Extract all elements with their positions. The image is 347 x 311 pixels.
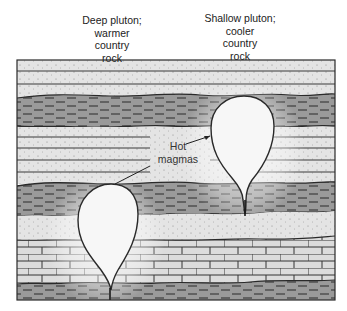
hot-magmas-label-line-2: magmas bbox=[153, 153, 203, 166]
deep-pluton-label-line-1: Deep pluton; bbox=[62, 14, 162, 27]
hot-magmas-label-line-1: Hot bbox=[153, 140, 203, 153]
strata bbox=[17, 60, 335, 306]
shallow-pluton-label-line-2: cooler bbox=[190, 25, 290, 38]
shallow-pluton-label-line-4: rock bbox=[190, 50, 290, 63]
deep-pluton-label: Deep pluton; warmer country rock bbox=[62, 14, 162, 64]
deep-pluton-label-line-3: country bbox=[62, 39, 162, 52]
hot-magmas-label: Hot magmas bbox=[153, 140, 203, 165]
shallow-pluton-label: Shallow pluton; cooler country rock bbox=[190, 12, 290, 62]
deep-pluton-label-line-2: warmer bbox=[62, 27, 162, 40]
sandstone-layer-2 bbox=[17, 71, 335, 84]
deep-pluton-label-line-4: rock bbox=[62, 52, 162, 65]
shallow-pluton-label-line-3: country bbox=[190, 37, 290, 50]
shallow-pluton-label-line-1: Shallow pluton; bbox=[190, 12, 290, 25]
